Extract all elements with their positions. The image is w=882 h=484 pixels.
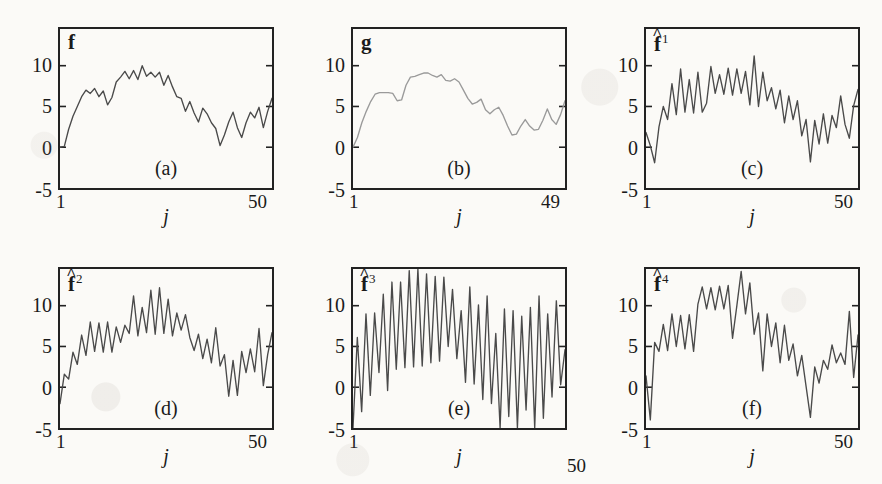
- y-tick-label: 10: [325, 55, 345, 75]
- y-tick-label: 5: [628, 336, 638, 356]
- x-axis-label: j: [351, 445, 567, 468]
- chart-panel-d: 1050-5^f2(d)150j: [0, 240, 294, 482]
- y-tick-label: 10: [618, 55, 638, 75]
- subplot-caption: (b): [353, 157, 565, 180]
- plot-frame: ^f3(e): [351, 267, 567, 430]
- y-tick-label: 10: [32, 55, 52, 75]
- series-title-d: ^f2: [68, 272, 83, 295]
- x-axis-label: j: [58, 205, 274, 228]
- y-tick-label: -5: [35, 180, 52, 200]
- x-tick-label-end: 50: [567, 456, 586, 475]
- y-tick-label: 5: [628, 96, 638, 116]
- y-axis-tick-labels: 1050-5: [8, 267, 52, 430]
- y-axis-tick-labels: 1050-5: [594, 267, 638, 430]
- subplot-caption: (f): [646, 397, 858, 420]
- subplot-caption: (c): [646, 157, 858, 180]
- series-title-b: g: [361, 32, 372, 53]
- y-tick-label: 0: [335, 138, 345, 158]
- subplot-caption: (a): [60, 157, 272, 180]
- y-tick-label: 5: [335, 96, 345, 116]
- y-axis-tick-labels: 1050-5: [8, 27, 52, 190]
- y-tick-label: 10: [325, 295, 345, 315]
- figure-panel-grid: 1050-5f(a)150j1050-5g(b)149j1050-5^f1(c)…: [0, 0, 882, 484]
- subplot-caption: (d): [60, 397, 272, 420]
- chart-panel-e: 1050-5^f3(e)150j: [293, 240, 587, 482]
- x-axis-label: j: [58, 445, 274, 468]
- y-tick-label: -5: [621, 420, 638, 440]
- y-tick-label: 5: [42, 96, 52, 116]
- y-axis-tick-labels: 1050-5: [301, 27, 345, 190]
- x-axis-label: j: [351, 205, 567, 228]
- y-tick-label: 0: [42, 378, 52, 398]
- subplot-caption: (e): [353, 397, 565, 420]
- y-tick-label: 0: [42, 138, 52, 158]
- y-tick-label: -5: [328, 420, 345, 440]
- y-tick-label: 5: [42, 336, 52, 356]
- chart-panel-f: 1050-5^f4(f)150j: [586, 240, 880, 482]
- x-axis-label: j: [644, 205, 860, 228]
- chart-panel-b: 1050-5g(b)149j: [293, 0, 587, 242]
- y-axis-tick-labels: 1050-5: [594, 27, 638, 190]
- y-tick-label: 10: [618, 295, 638, 315]
- plot-frame: ^f4(f): [644, 267, 860, 430]
- plot-frame: f(a): [58, 27, 274, 190]
- y-axis-tick-labels: 1050-5: [301, 267, 345, 430]
- plot-frame: g(b): [351, 27, 567, 190]
- y-tick-label: 10: [32, 295, 52, 315]
- chart-panel-c: 1050-5^f1(c)150j: [586, 0, 880, 242]
- y-tick-label: 0: [628, 378, 638, 398]
- y-tick-label: 0: [628, 138, 638, 158]
- y-tick-label: 5: [335, 336, 345, 356]
- y-tick-label: 0: [335, 378, 345, 398]
- y-tick-label: -5: [621, 180, 638, 200]
- chart-panel-a: 1050-5f(a)150j: [0, 0, 294, 242]
- y-tick-label: -5: [328, 180, 345, 200]
- series-title-c: ^f1: [654, 32, 669, 55]
- x-axis-label: j: [644, 445, 860, 468]
- series-title-f: ^f4: [654, 272, 669, 295]
- series-title-a: f: [68, 32, 75, 53]
- y-tick-label: -5: [35, 420, 52, 440]
- plot-frame: ^f2(d): [58, 267, 274, 430]
- plot-frame: ^f1(c): [644, 27, 860, 190]
- series-title-e: ^f3: [361, 272, 376, 295]
